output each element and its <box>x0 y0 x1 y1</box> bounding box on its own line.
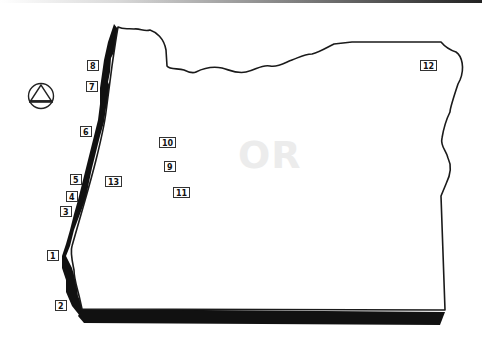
circle-with-triangle-icon <box>27 82 55 114</box>
south-border-band <box>78 309 445 325</box>
site-marker-7[interactable]: 7 <box>86 81 98 92</box>
site-marker-6[interactable]: 6 <box>80 126 92 137</box>
site-marker-9[interactable]: 9 <box>164 161 176 172</box>
site-marker-8[interactable]: 8 <box>87 60 99 71</box>
site-marker-11[interactable]: 11 <box>173 187 190 198</box>
site-marker-4[interactable]: 4 <box>66 191 78 202</box>
site-marker-12[interactable]: 12 <box>420 60 437 71</box>
site-marker-1[interactable]: 1 <box>47 250 59 261</box>
site-marker-5[interactable]: 5 <box>70 174 82 185</box>
site-marker-13[interactable]: 13 <box>105 176 122 187</box>
state-abbreviation-label: OR <box>238 136 302 174</box>
site-marker-3[interactable]: 3 <box>60 206 72 217</box>
site-marker-2[interactable]: 2 <box>55 300 67 311</box>
site-marker-10[interactable]: 10 <box>159 137 176 148</box>
